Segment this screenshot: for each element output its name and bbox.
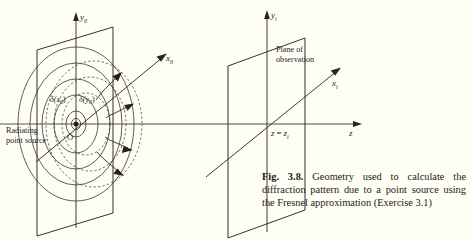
ray-arrow-2 <box>113 104 134 115</box>
z-axis-arrowhead <box>353 121 362 127</box>
delta-y0-label: δ(y0) <box>79 95 95 105</box>
yi-axis-label: yi <box>270 10 277 22</box>
observation-plane-label-line1: Plane of <box>276 45 303 54</box>
origin-label: O <box>67 132 73 142</box>
figure-caption: Fig. 3.8. Geometry used to calculate the… <box>262 170 466 210</box>
delta-x0-label: δ(x0) <box>50 95 66 105</box>
observation-plane-label-line2: observation <box>276 55 314 64</box>
figure-number: Fig. 3.8. <box>262 171 303 182</box>
point-source-dot <box>74 122 79 127</box>
z-axis-label: z <box>348 128 353 138</box>
yi-axis-arrowhead <box>264 10 270 19</box>
radiating-source-label-line2: point source <box>6 136 47 145</box>
y0-axis-arrowhead <box>73 12 79 21</box>
x0-axis-label: x0 <box>165 53 173 65</box>
x0-axis-line <box>36 57 163 162</box>
y0-axis-label: y0 <box>79 12 87 24</box>
z-position-label: z=zi <box>270 128 289 140</box>
ray-arrow-3 <box>112 141 133 153</box>
source-plane-parallelogram <box>37 27 113 236</box>
radiating-source-label-line1: Radiating <box>6 126 38 135</box>
xi-axis-label: xi <box>331 78 338 90</box>
